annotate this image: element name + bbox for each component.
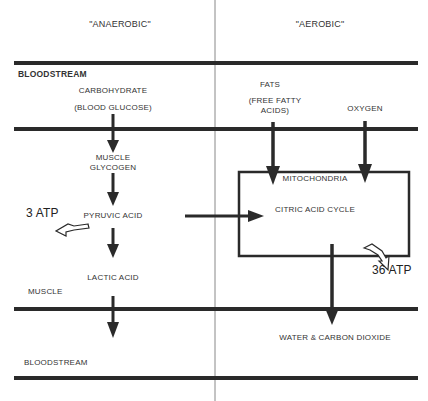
label-atp-anaerobic: 3 ATP	[26, 208, 59, 218]
label-free-fatty-1: (FREE FATTY	[240, 96, 310, 106]
arrow-glycogen-to-pyruvic	[107, 173, 119, 206]
arrow-pyruvic-to-lactic	[107, 228, 119, 258]
label-citric-acid-cycle: CITRIC ACID CYCLE	[270, 205, 360, 215]
label-muscle-glycogen-2: GLYCOGEN	[83, 163, 143, 173]
label-free-fatty-2: ACIDS)	[240, 106, 310, 116]
label-muscle: MUSCLE	[28, 287, 63, 297]
header-aerobic: "AEROBIC"	[280, 19, 360, 29]
label-blood-glucose: (BLOOD GLUCOSE)	[63, 103, 163, 113]
label-water-co2: WATER & CARBON DIOXIDE	[270, 333, 400, 343]
bloodstream-bottom-line	[14, 376, 418, 380]
label-bloodstream-bottom: BLOODSTREAM	[24, 358, 88, 368]
bloodstream-top-line	[14, 61, 418, 65]
label-pyruvic-acid: PYRUVIC ACID	[73, 211, 153, 221]
label-lactic-acid: LACTIC ACID	[73, 273, 153, 283]
arrow-pyruvic-to-citric	[185, 210, 264, 222]
label-atp-aerobic: 36 ATP	[372, 265, 412, 275]
label-carbohydrate: CARBOHYDRATE	[68, 86, 158, 96]
label-bloodstream-top: BLOODSTREAM	[18, 69, 87, 79]
label-muscle-glycogen-1: MUSCLE	[83, 153, 143, 163]
arrow-lactic-to-bloodstream	[107, 296, 119, 338]
muscle-bottom-line	[14, 307, 418, 311]
arrow-glucose-to-glycogen	[107, 114, 119, 153]
label-mitochondria: MITOCHONDRIA	[280, 174, 350, 184]
atp-release-arrow-anaerobic	[56, 224, 89, 236]
header-anaerobic: "ANAEROBIC"	[80, 19, 160, 29]
label-oxygen: OXYGEN	[340, 104, 390, 114]
muscle-membrane-line	[14, 127, 418, 131]
arrow-fats-to-mitochondria	[266, 122, 280, 185]
label-fats: FATS	[250, 80, 290, 90]
